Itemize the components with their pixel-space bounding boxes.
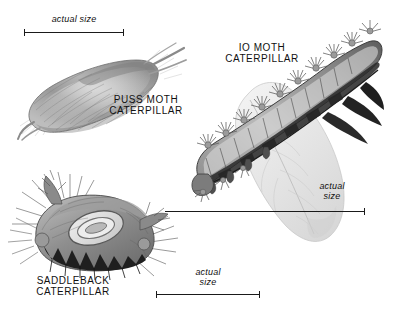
saddleback-label: SADDLEBACK CATERPILLAR (18, 275, 128, 297)
io-moth-caterpillar-figure (178, 22, 394, 250)
scale-bar-rule (156, 294, 260, 295)
scale-bar-cap-right (364, 208, 365, 215)
scale-bar-cap-left (24, 29, 25, 36)
scale-bar-cap-right (259, 291, 260, 298)
scale-bar-top (24, 29, 124, 36)
illustration-plate: actual size (0, 0, 394, 322)
scale-bar-bottom (156, 291, 260, 298)
scale-bar-cap-left (156, 291, 157, 298)
scale-label-top: actual size (24, 14, 124, 24)
puss-moth-caterpillar-figure (18, 36, 188, 140)
scale-label-right: actual size (306, 181, 358, 201)
scale-bar-cap-right (123, 29, 124, 36)
saddleback-caterpillar-figure (8, 168, 188, 286)
scale-bar-rule (165, 211, 365, 212)
scale-bar-rule (24, 32, 124, 33)
scale-label-bottom: actual size (182, 267, 234, 287)
scale-bar-right (165, 208, 365, 215)
